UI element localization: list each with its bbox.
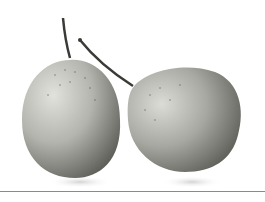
stem-left (63, 18, 70, 58)
pears-photo (0, 0, 265, 202)
shadow-right (162, 176, 222, 188)
pear-left (22, 60, 120, 178)
divider-line (0, 191, 265, 192)
pear-right (128, 68, 241, 172)
shadow-left (48, 176, 112, 188)
